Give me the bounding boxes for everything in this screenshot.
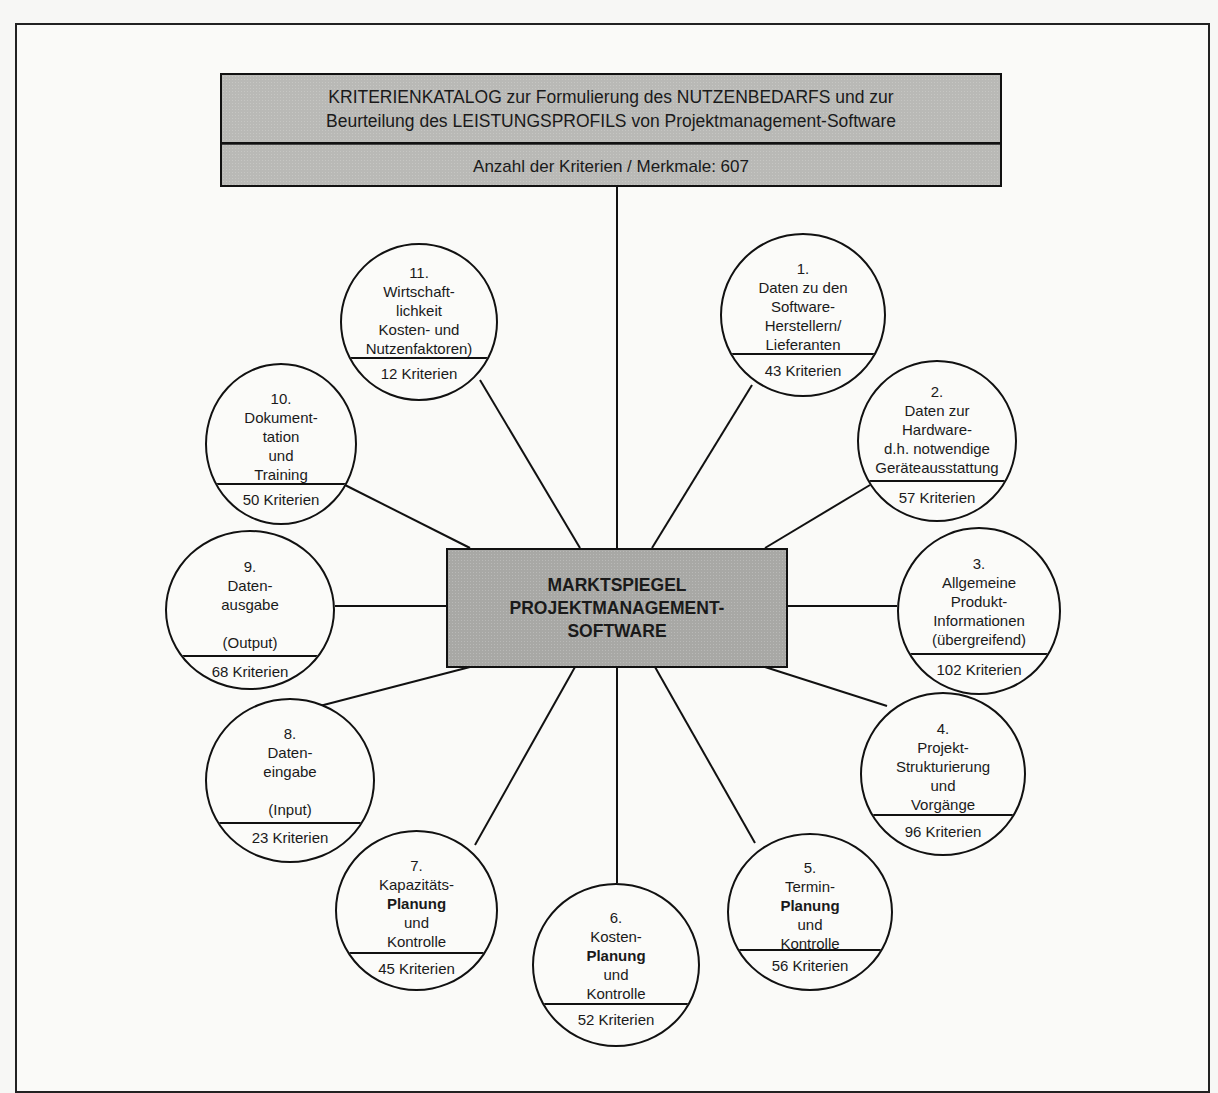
node-criteria-count: 68 Kriterien bbox=[167, 662, 333, 682]
node-line: Geräteausstattung bbox=[875, 458, 998, 477]
node-divider bbox=[337, 952, 496, 954]
category-node-4: 4. Projekt- Strukturierung und Vorgänge … bbox=[860, 692, 1026, 856]
node-line: Training bbox=[254, 465, 308, 484]
node-number: 5. bbox=[804, 858, 817, 877]
catalog-title-line-1: KRITERIENKATALOG zur Formulierung des NU… bbox=[328, 85, 893, 109]
node-divider bbox=[342, 357, 496, 359]
node-divider bbox=[167, 655, 333, 657]
node-line: Termin- bbox=[785, 877, 835, 896]
node-criteria-count: 23 Kriterien bbox=[207, 828, 373, 848]
category-node-5: 5. Termin- Planung und Kontrolle 56 Krit… bbox=[727, 833, 893, 991]
node-criteria-count: 12 Kriterien bbox=[342, 364, 496, 384]
node-line: Lieferanten bbox=[765, 335, 840, 354]
node-line: Strukturierung bbox=[896, 757, 990, 776]
node-number: 9. bbox=[244, 557, 257, 576]
node-line: eingabe bbox=[263, 762, 316, 781]
node-line: Daten zu den bbox=[758, 278, 847, 297]
node-line: d.h. notwendige bbox=[884, 439, 990, 458]
node-number: 11. bbox=[409, 263, 429, 282]
node-line: Kosten- bbox=[590, 927, 642, 946]
catalog-title: KRITERIENKATALOG zur Formulierung des NU… bbox=[222, 75, 1000, 144]
connector-node-11 bbox=[480, 380, 580, 548]
category-node-11: 11. Wirtschaft- lichkeit Kosten- und Nut… bbox=[340, 243, 498, 401]
catalog-title-line-2: Beurteilung des LEISTUNGSPROFILS von Pro… bbox=[326, 109, 896, 133]
category-node-3: 3. Allgemeine Produkt- Informationen (üb… bbox=[897, 527, 1061, 695]
node-divider bbox=[722, 353, 884, 355]
node-line: Herstellern/ bbox=[765, 316, 842, 335]
node-line-bold: Planung bbox=[586, 946, 645, 965]
node-criteria-count: 50 Kriterien bbox=[207, 490, 355, 510]
center-line-1: MARKTSPIEGEL bbox=[547, 574, 686, 597]
node-line: Hardware- bbox=[902, 420, 972, 439]
node-criteria-count: 45 Kriterien bbox=[337, 959, 496, 979]
node-line: und bbox=[404, 913, 429, 932]
node-line: Kosten- und bbox=[379, 320, 460, 339]
criteria-count: Anzahl der Kriterien / Merkmale: 607 bbox=[222, 144, 1000, 188]
node-number: 7. bbox=[410, 856, 423, 875]
node-line: und bbox=[603, 965, 628, 984]
node-number: 3. bbox=[973, 554, 986, 573]
node-number: 1. bbox=[797, 259, 810, 278]
node-line: Nutzenfaktoren) bbox=[366, 339, 473, 358]
category-node-10: 10. Dokument- tation und Training 50 Kri… bbox=[205, 363, 357, 525]
node-line: Vorgänge bbox=[911, 795, 975, 814]
node-number: 2. bbox=[931, 382, 944, 401]
center-topic-box: MARKTSPIEGEL PROJEKTMANAGEMENT- SOFTWARE bbox=[446, 548, 788, 668]
node-line: ausgabe bbox=[221, 595, 279, 614]
node-line: und bbox=[930, 776, 955, 795]
node-line: Allgemeine bbox=[942, 573, 1016, 592]
node-divider bbox=[207, 483, 355, 485]
node-divider bbox=[207, 822, 373, 824]
node-divider bbox=[862, 814, 1024, 816]
connector-node-2 bbox=[765, 485, 870, 548]
center-line-2: PROJEKTMANAGEMENT- bbox=[510, 597, 725, 620]
criteria-catalog-header: KRITERIENKATALOG zur Formulierung des NU… bbox=[220, 73, 1002, 187]
node-line: Produkt- bbox=[951, 592, 1008, 611]
node-divider bbox=[859, 480, 1015, 482]
node-line: Kapazitäts- bbox=[379, 875, 454, 894]
node-line: Daten- bbox=[227, 576, 272, 595]
node-number: 10. bbox=[271, 389, 292, 408]
connector-node-7 bbox=[475, 667, 575, 845]
category-node-8: 8. Daten- eingabe (Input) 23 Kriterien bbox=[205, 698, 375, 863]
node-criteria-count: 102 Kriterien bbox=[899, 660, 1059, 680]
node-line-bold: Planung bbox=[780, 896, 839, 915]
node-line: (Output) bbox=[222, 633, 277, 652]
node-number: 4. bbox=[937, 719, 950, 738]
node-line: Software- bbox=[771, 297, 835, 316]
connector-node-10 bbox=[345, 485, 470, 548]
node-line: tation bbox=[263, 427, 300, 446]
node-number: 8. bbox=[284, 724, 297, 743]
center-line-3: SOFTWARE bbox=[567, 620, 666, 643]
category-node-2: 2. Daten zur Hardware- d.h. notwendige G… bbox=[857, 360, 1017, 522]
category-node-7: 7. Kapazitäts- Planung und Kontrolle 45 … bbox=[335, 830, 498, 991]
node-line: Wirtschaft- bbox=[383, 282, 455, 301]
node-criteria-count: 52 Kriterien bbox=[534, 1010, 698, 1030]
node-line: Kontrolle bbox=[586, 984, 645, 1003]
node-line: (Input) bbox=[268, 800, 311, 819]
node-criteria-count: 56 Kriterien bbox=[729, 956, 891, 976]
node-divider bbox=[729, 949, 891, 951]
node-line: Informationen bbox=[933, 611, 1025, 630]
category-node-6: 6. Kosten- Planung und Kontrolle 52 Krit… bbox=[532, 883, 700, 1047]
node-number: 6. bbox=[610, 908, 623, 927]
connector-node-5 bbox=[655, 667, 755, 843]
node-line: und bbox=[268, 446, 293, 465]
node-line-bold: Planung bbox=[387, 894, 446, 913]
node-line: Dokument- bbox=[244, 408, 317, 427]
node-line: Kontrolle bbox=[387, 932, 446, 951]
connector-node-1 bbox=[652, 385, 752, 548]
node-criteria-count: 57 Kriterien bbox=[859, 488, 1015, 508]
node-line: und bbox=[797, 915, 822, 934]
node-line: (übergreifend) bbox=[932, 630, 1026, 649]
category-node-9: 9. Daten- ausgabe (Output) 68 Kriterien bbox=[165, 530, 335, 690]
node-line: Projekt- bbox=[917, 738, 969, 757]
node-line: Daten- bbox=[267, 743, 312, 762]
node-divider bbox=[534, 1003, 698, 1005]
node-line: lichkeit bbox=[396, 301, 442, 320]
node-line: Daten zur bbox=[904, 401, 969, 420]
node-divider bbox=[899, 653, 1059, 655]
